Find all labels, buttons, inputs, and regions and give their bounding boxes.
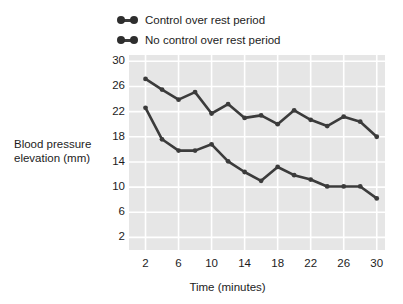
chart-figure: Control over rest period No control over… — [0, 0, 403, 304]
legend-item-no-control[interactable]: No control over rest period — [117, 31, 357, 49]
x-tick-label: 30 — [364, 258, 390, 270]
x-tick-label: 26 — [331, 258, 357, 270]
y-tick-label: 10 — [103, 181, 125, 193]
x-tick-label: 22 — [298, 258, 324, 270]
grid-lines — [129, 55, 385, 250]
y-tick-label: 18 — [103, 131, 125, 143]
y-tick-label: 26 — [103, 80, 125, 92]
y-tick-label: 6 — [103, 206, 125, 218]
y-tick-label: 14 — [103, 156, 125, 168]
y-tick-label: 2 — [103, 231, 125, 243]
x-tick-label: 6 — [166, 258, 192, 270]
x-tick-label: 14 — [232, 258, 258, 270]
x-tick-label: 18 — [265, 258, 291, 270]
y-axis-tick-labels: 26101418222630 — [101, 0, 125, 304]
legend-item-label: Control over rest period — [145, 14, 265, 27]
plot-area — [129, 55, 385, 250]
y-tick-label: 30 — [103, 55, 125, 67]
legend-item-label: No control over rest period — [145, 34, 281, 47]
legend-item-control[interactable]: Control over rest period — [117, 11, 357, 29]
chart-legend: Control over rest period No control over… — [117, 11, 357, 51]
plot-canvas — [129, 55, 385, 250]
x-axis-title: Time (minutes) — [0, 281, 403, 293]
x-axis-title-text: Time (minutes) — [189, 281, 265, 293]
x-tick-label: 2 — [133, 258, 159, 270]
y-tick-label: 22 — [103, 106, 125, 118]
x-axis-tick-labels: 26101418222630 — [129, 258, 385, 274]
x-tick-label: 10 — [199, 258, 225, 270]
